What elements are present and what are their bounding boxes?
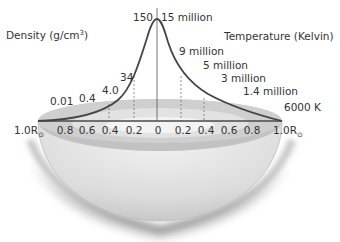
temperature-label-0-8: 1.4 million: [243, 85, 298, 97]
tick-right-0-6: 0.6: [221, 124, 238, 136]
tick-right-0-2: 0.2: [175, 124, 192, 136]
tick-left-0-4: 0.4: [102, 124, 119, 136]
temperature-axis-title: Temperature (Kelvin): [224, 30, 334, 42]
tick-center: 0: [155, 124, 162, 136]
density-label-0-8: 0.01: [50, 95, 73, 107]
tick-left-0-8: 0.8: [57, 124, 74, 136]
temperature-label-0-2: 9 million: [179, 45, 224, 57]
density-label-0-4: 4.0: [102, 84, 119, 96]
temperature-label-0-6: 3 million: [221, 72, 266, 84]
density-label-0-6: 0.4: [79, 92, 96, 104]
tick-right-0-8: 0.8: [244, 124, 261, 136]
tick-right-1-0: 1.0R⊙: [273, 124, 303, 138]
tick-left-1-0: 1.0R⊙: [14, 124, 44, 138]
tick-left-0-6: 0.6: [79, 124, 96, 136]
tick-left-0-2: 0.2: [126, 124, 143, 136]
density-label-center: 150: [133, 11, 153, 23]
tick-right-0-4: 0.4: [198, 124, 215, 136]
temperature-label-center: 15 million: [161, 11, 213, 23]
density-axis-title: Density (g/cm3): [6, 29, 88, 41]
temperature-label-surface: 6000 K: [284, 101, 321, 113]
density-label-0-2: 34: [120, 71, 133, 83]
temperature-label-0-4: 5 million: [203, 59, 248, 71]
